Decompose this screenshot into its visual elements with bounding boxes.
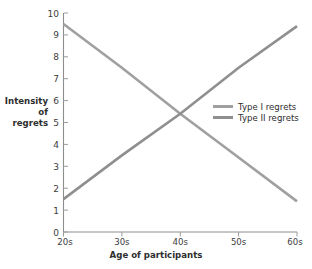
y-tick-label: 9 — [53, 30, 59, 40]
x-tick-label: 30s — [114, 237, 130, 247]
y-tick-label: 4 — [53, 140, 59, 150]
y-axis-title-line: Intensity — [2, 96, 48, 107]
chart-plot-area: 10 9 8 7 6 5 4 3 2 1 0 20s 30s 40s 50s 6… — [0, 0, 312, 269]
legend-label: Type I regrets — [238, 102, 296, 112]
y-axis-title: Intensity of regrets — [2, 96, 48, 129]
x-tick-label: 40s — [173, 237, 189, 247]
y-tick-label: 10 — [48, 9, 60, 19]
y-tick-labels: 10 9 8 7 6 5 4 3 2 1 0 — [48, 9, 60, 238]
x-tick-label: 20s — [57, 237, 73, 247]
legend-item: Type I regrets — [213, 101, 299, 112]
y-axis-title-line: of — [2, 107, 48, 118]
y-tick-label: 0 — [53, 228, 59, 238]
x-axis-title: Age of participants — [0, 250, 312, 260]
y-tick-label: 8 — [53, 52, 59, 62]
y-tick-label: 1 — [53, 206, 59, 216]
y-tick-label: 3 — [53, 162, 59, 172]
x-tick-label: 50s — [231, 237, 247, 247]
chart-container: 10 9 8 7 6 5 4 3 2 1 0 20s 30s 40s 50s 6… — [0, 0, 312, 269]
legend-item: Type II regrets — [213, 112, 299, 123]
x-tick-labels: 20s 30s 40s 50s 60s — [57, 237, 303, 247]
x-tick-label: 60s — [287, 237, 303, 247]
chart-legend: Type I regrets Type II regrets — [213, 101, 299, 123]
y-tick-label: 7 — [53, 74, 59, 84]
y-axis-title-line: regrets — [2, 118, 48, 129]
y-tick-label: 5 — [53, 118, 59, 128]
legend-swatch-type-ii-regrets — [213, 116, 233, 119]
legend-swatch-type-i-regrets — [213, 105, 233, 108]
y-tick-label: 2 — [53, 184, 59, 194]
x-axis-ticks — [64, 232, 298, 237]
legend-label: Type II regrets — [238, 113, 299, 123]
y-tick-label: 6 — [53, 96, 59, 106]
